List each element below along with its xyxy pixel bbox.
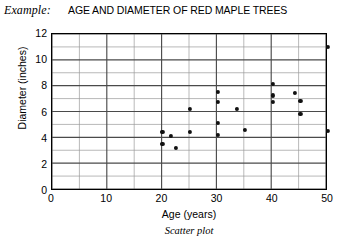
data-point xyxy=(174,146,178,150)
data-point xyxy=(298,99,302,103)
data-point xyxy=(188,106,192,110)
x-tick-label: 50 xyxy=(321,192,333,204)
x-axis-tick-labels: 01020304050 xyxy=(51,192,327,208)
x-tick-label: 20 xyxy=(156,192,168,204)
y-axis-title: Diameter (inches) xyxy=(16,28,28,148)
data-point xyxy=(271,100,275,104)
data-point xyxy=(235,106,239,110)
chart-title: AGE AND DIAMETER OF RED MAPLE TREES xyxy=(68,4,287,16)
x-tick-label: 30 xyxy=(211,192,223,204)
x-tick-label: 10 xyxy=(100,192,112,204)
scatter-points-layer xyxy=(52,34,326,189)
example-label: Example: xyxy=(4,3,51,18)
data-point xyxy=(243,127,247,131)
data-point xyxy=(216,121,220,125)
data-point xyxy=(271,93,275,97)
data-point xyxy=(160,142,164,146)
figure-container: Example: AGE AND DIAMETER OF RED MAPLE T… xyxy=(0,0,342,243)
y-tick-label: 2 xyxy=(1,158,47,170)
data-point xyxy=(298,112,302,116)
figure-caption: Scatter plot xyxy=(51,225,327,236)
x-axis-title: Age (years) xyxy=(51,208,327,220)
data-point xyxy=(326,45,330,49)
data-point xyxy=(169,134,173,138)
data-point xyxy=(216,133,220,137)
data-point xyxy=(160,130,164,134)
data-point xyxy=(293,91,297,95)
plot-area xyxy=(51,33,327,190)
data-point xyxy=(271,82,275,86)
data-point xyxy=(216,89,220,93)
data-point xyxy=(188,130,192,134)
x-tick-label: 0 xyxy=(48,192,54,204)
data-point xyxy=(216,100,220,104)
x-tick-label: 40 xyxy=(266,192,278,204)
y-tick-label: 0 xyxy=(1,184,47,196)
data-point xyxy=(326,129,330,133)
